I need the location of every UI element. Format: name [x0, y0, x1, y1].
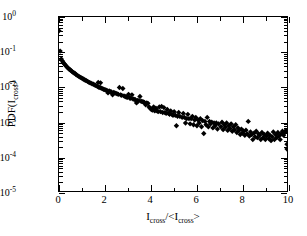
y-minor-tick	[59, 91, 63, 92]
y-minor-tick	[284, 77, 288, 78]
y-minor-tick	[284, 141, 288, 142]
x-tick-label: 4	[147, 195, 152, 206]
y-tick-exponent: -5	[10, 185, 16, 194]
y-minor-tick	[59, 66, 63, 67]
y-minor-tick	[59, 133, 63, 134]
x-major-tick	[197, 17, 198, 23]
x-minor-tick	[174, 188, 175, 192]
y-minor-tick	[59, 54, 63, 55]
y-minor-tick	[59, 95, 63, 96]
y-minor-tick	[59, 58, 63, 59]
x-major-tick	[105, 185, 106, 191]
x-minor-tick	[266, 188, 267, 192]
y-minor-tick	[284, 112, 288, 113]
y-minor-tick	[284, 137, 288, 138]
y-minor-tick	[284, 106, 288, 107]
y-minor-tick	[284, 20, 288, 21]
y-minor-tick	[284, 28, 288, 29]
y-tick-exponent: -1	[10, 44, 16, 53]
y-minor-tick	[284, 147, 288, 148]
y-minor-tick	[284, 133, 288, 134]
y-minor-tick	[59, 77, 63, 78]
data-point-marker	[284, 142, 287, 147]
x-major-tick	[289, 185, 290, 191]
y-minor-tick	[284, 166, 288, 167]
y-minor-tick	[284, 172, 288, 173]
y-minor-tick	[284, 31, 288, 32]
x-tick-label: 6	[193, 195, 198, 206]
y-minor-tick	[284, 168, 288, 169]
y-minor-tick	[59, 98, 63, 99]
y-minor-tick	[59, 128, 63, 129]
y-minor-tick	[59, 35, 63, 36]
y-minor-tick	[284, 182, 288, 183]
y-tick-mantissa: 10	[0, 152, 10, 163]
x-major-tick	[105, 17, 106, 23]
y-minor-tick	[284, 176, 288, 177]
y-minor-tick	[284, 66, 288, 67]
y-minor-tick	[59, 159, 63, 160]
x-major-tick	[197, 185, 198, 191]
x-minor-tick	[174, 17, 175, 21]
y-tick-mantissa: 10	[0, 46, 10, 57]
x-major-tick	[289, 17, 290, 23]
y-tick-mantissa: 10	[0, 187, 10, 198]
y-minor-tick	[59, 130, 63, 131]
x-title-sub2: cross	[178, 216, 193, 225]
y-minor-tick	[284, 101, 288, 102]
y-minor-tick	[59, 137, 63, 138]
y-minor-tick	[284, 95, 288, 96]
x-tick-label: 2	[101, 195, 106, 206]
y-title-close: )	[5, 81, 17, 85]
y-minor-tick	[59, 126, 63, 127]
x-minor-tick	[220, 188, 221, 192]
plot-area	[58, 16, 288, 192]
x-tick-label: 8	[239, 195, 244, 206]
y-minor-tick	[59, 147, 63, 148]
y-minor-tick	[284, 60, 288, 61]
data-point-marker	[185, 112, 190, 117]
y-minor-tick	[284, 91, 288, 92]
data-point-marker	[183, 120, 188, 125]
y-minor-tick	[284, 71, 288, 72]
y-minor-tick	[284, 56, 288, 57]
y-minor-tick	[59, 168, 63, 169]
y-minor-tick	[284, 22, 288, 23]
y-minor-tick	[284, 35, 288, 36]
x-title-slash: /<I	[165, 210, 178, 222]
y-minor-tick	[59, 89, 63, 90]
x-title-close: >	[194, 210, 200, 222]
y-minor-tick	[284, 161, 288, 162]
y-minor-tick	[59, 176, 63, 177]
y-minor-tick	[59, 31, 63, 32]
x-major-tick	[151, 17, 152, 23]
y-minor-tick	[284, 54, 288, 55]
y-minor-tick	[59, 112, 63, 113]
y-minor-tick	[284, 128, 288, 129]
y-minor-tick	[59, 124, 63, 125]
y-minor-tick	[59, 71, 63, 72]
y-minor-tick	[284, 58, 288, 59]
y-minor-tick	[59, 141, 63, 142]
x-axis-title: Icross/<Icross>	[146, 211, 200, 225]
x-minor-tick	[82, 17, 83, 21]
y-minor-tick	[59, 20, 63, 21]
y-minor-tick	[284, 42, 288, 43]
data-markers-layer	[59, 17, 287, 191]
y-tick-label: 10-4	[0, 151, 16, 163]
y-tick-exponent: 0	[12, 9, 16, 18]
x-minor-tick	[128, 17, 129, 21]
x-minor-tick	[82, 188, 83, 192]
y-minor-tick	[284, 124, 288, 125]
y-minor-tick	[284, 93, 288, 94]
y-axis-title: PDF(Icross)	[6, 81, 20, 128]
y-tick-mantissa: 10	[2, 11, 12, 22]
y-minor-tick	[59, 63, 63, 64]
x-tick-label: 0	[55, 195, 60, 206]
y-tick-exponent: -4	[10, 150, 16, 159]
y-minor-tick	[59, 172, 63, 173]
y-tick-label: 10-5	[0, 186, 16, 198]
y-minor-tick	[59, 60, 63, 61]
data-point-marker	[246, 119, 251, 124]
y-minor-tick	[59, 42, 63, 43]
